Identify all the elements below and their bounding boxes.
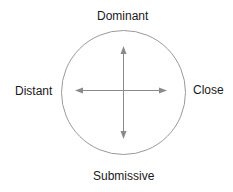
label-distant: Distant	[15, 84, 52, 98]
arrow-right-icon	[159, 88, 167, 94]
arrow-up-icon	[121, 46, 127, 54]
label-submissive: Submissive	[93, 169, 154, 183]
arrow-down-icon	[121, 131, 127, 139]
label-dominant: Dominant	[97, 9, 148, 23]
label-close: Close	[193, 83, 224, 97]
arrow-left-icon	[75, 88, 83, 94]
